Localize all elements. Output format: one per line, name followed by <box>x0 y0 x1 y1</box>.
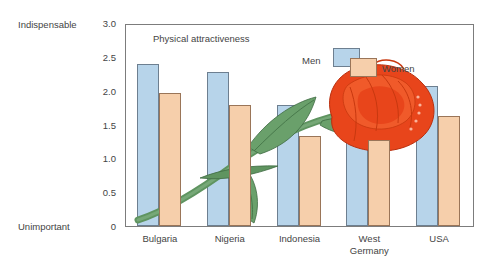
y-tick-label: 1.5 <box>90 120 116 131</box>
legend-label-women: Women <box>382 63 415 74</box>
legend-label-men: Men <box>302 55 320 66</box>
bar-men <box>346 99 368 226</box>
plot-area: Physical attractiveness <box>125 24 474 227</box>
y-tick-label: 2.0 <box>90 86 116 97</box>
bar-women <box>159 93 181 226</box>
bar-men <box>137 64 159 226</box>
bar-men <box>416 86 438 226</box>
bar-women <box>299 136 321 226</box>
bar-men <box>207 72 229 226</box>
plot-inner: Physical attractiveness <box>126 25 473 226</box>
bar-women <box>229 105 251 226</box>
x-tick-label: USA <box>394 233 484 245</box>
y-tick-label: 2.5 <box>90 52 116 63</box>
y-tick-label: 0.5 <box>90 187 116 198</box>
legend: Men Women <box>302 47 442 81</box>
y-tick-label: 0 <box>90 221 116 232</box>
axis-end-label-bottom: Unimportant <box>18 221 70 232</box>
y-tick-label: 3.0 <box>90 18 116 29</box>
chart-figure: Indispensable Unimportant 00.51.01.52.02… <box>0 0 494 270</box>
y-tick-label: 1.0 <box>90 153 116 164</box>
bar-men <box>277 105 299 226</box>
axis-end-label-top: Indispensable <box>18 19 77 30</box>
chart-title: Physical attractiveness <box>153 33 250 44</box>
bar-women <box>368 140 390 226</box>
legend-swatch-women <box>350 58 377 77</box>
bar-women <box>438 116 460 226</box>
